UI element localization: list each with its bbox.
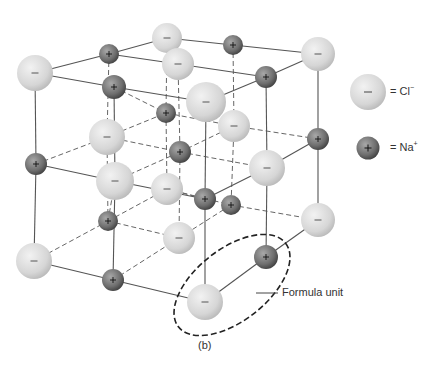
chloride-ion [163, 222, 195, 254]
sodium-ion [194, 188, 216, 210]
chloride-ion [96, 162, 134, 200]
chloride-ion [186, 82, 226, 122]
legend-sodium-sphere [357, 137, 380, 160]
nacl-crystal-lattice-figure: = Cl− = Na+ Formula unit (b) [0, 0, 430, 367]
legend-sodium-text: = Na [390, 141, 414, 153]
sodium-ion [223, 35, 243, 55]
chloride-ion [249, 150, 285, 186]
chloride-ion [17, 55, 53, 91]
sodium-ion [156, 103, 176, 123]
sodium-ion [25, 153, 47, 175]
sodium-ion [102, 75, 126, 99]
legend-sodium-label: = Na+ [390, 141, 418, 153]
figure-caption: (b) [198, 339, 211, 351]
legend-chloride-sphere [350, 74, 386, 110]
chloride-ion [301, 203, 335, 237]
chloride-ion [218, 110, 250, 142]
sodium-ion [98, 211, 118, 231]
legend-chloride-charge: − [410, 84, 414, 91]
chloride-ion [301, 37, 335, 71]
chloride-ion [151, 173, 183, 205]
legend-chloride-label: = Cl− [390, 85, 414, 97]
chloride-ion [187, 284, 223, 320]
sodium-ion [307, 128, 329, 150]
chloride-ion [162, 48, 194, 80]
sodium-ion [255, 66, 277, 88]
sodium-ion [254, 245, 278, 269]
sodium-ion [169, 141, 191, 163]
chloride-ion [16, 243, 52, 279]
chloride-ion [89, 119, 125, 155]
formula-unit-label: Formula unit [282, 286, 343, 298]
sodium-ion [221, 195, 241, 215]
sodium-ion [102, 269, 124, 291]
lattice-diagram [0, 0, 430, 367]
sodium-ion [99, 44, 119, 64]
legend-sodium-charge: + [414, 140, 418, 147]
legend-chloride-text: = Cl [390, 85, 410, 97]
